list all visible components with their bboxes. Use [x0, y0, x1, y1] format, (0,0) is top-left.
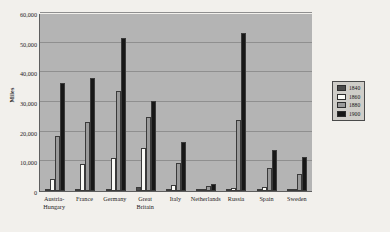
- legend-item: 1900: [337, 111, 360, 117]
- x-tick-label: Russia: [221, 195, 251, 210]
- bar-group: [45, 14, 65, 191]
- bar: [90, 78, 95, 191]
- legend-swatch: [337, 85, 346, 91]
- legend-label: 1860: [349, 94, 360, 100]
- x-tick-label: Germany: [100, 195, 130, 210]
- x-tick-label-line: Russia: [221, 195, 251, 203]
- x-tick-label-line: Hungary: [39, 203, 69, 211]
- bar-group: [166, 14, 186, 191]
- legend-item: 1880: [337, 102, 360, 108]
- legend-label: 1880: [349, 102, 360, 108]
- x-tick-label: Austria-Hungary: [39, 195, 69, 210]
- legend: 1840186018801900: [332, 81, 365, 121]
- y-tick-label: 20,000: [3, 129, 37, 136]
- x-tick-label: Italy: [160, 195, 190, 210]
- bar: [121, 38, 126, 191]
- bar-group: [196, 14, 216, 191]
- bar: [302, 157, 307, 191]
- bar-group: [136, 14, 156, 191]
- x-tick-label: Sweden: [282, 195, 312, 210]
- x-tick-label: France: [69, 195, 99, 210]
- y-tick-label: 60,000: [3, 11, 37, 18]
- bar-group: [106, 14, 126, 191]
- x-tick-label-line: Italy: [160, 195, 190, 203]
- legend-swatch: [337, 94, 346, 100]
- x-tick-label-line: Netherlands: [191, 195, 221, 203]
- bar: [241, 33, 246, 191]
- x-tick-label-line: Britain: [130, 203, 160, 211]
- y-axis: 010,00020,00030,00040,00050,00060,000: [0, 0, 37, 232]
- gridline: [40, 12, 312, 13]
- legend-label: 1900: [349, 111, 360, 117]
- x-tick-label-line: Spain: [251, 195, 281, 203]
- bar-group: [226, 14, 246, 191]
- bar-group: [75, 14, 95, 191]
- bar-groups: [40, 14, 312, 191]
- legend-swatch: [337, 102, 346, 108]
- x-tick-label-line: Great: [130, 195, 160, 203]
- legend-item: 1860: [337, 94, 360, 100]
- plot-area: [39, 14, 312, 192]
- y-axis-title: Miles: [9, 71, 15, 119]
- bar: [151, 101, 156, 191]
- bar-group: [287, 14, 307, 191]
- x-tick-label-line: Austria-: [39, 195, 69, 203]
- legend-item: 1840: [337, 85, 360, 91]
- bar: [272, 150, 277, 191]
- x-axis-labels: Austria-HungaryFranceGermanyGreatBritain…: [39, 195, 312, 210]
- y-tick-label: 10,000: [3, 159, 37, 166]
- legend-swatch: [337, 111, 346, 117]
- bar-group: [257, 14, 277, 191]
- x-tick-label-line: Germany: [100, 195, 130, 203]
- bar: [211, 184, 216, 191]
- x-tick-label-line: France: [69, 195, 99, 203]
- y-tick-label: 0: [3, 189, 37, 196]
- x-tick-label-line: Sweden: [282, 195, 312, 203]
- bar: [181, 142, 186, 191]
- x-tick-label: Spain: [251, 195, 281, 210]
- x-tick-label: Netherlands: [191, 195, 221, 210]
- bar: [60, 83, 65, 191]
- x-tick-label: GreatBritain: [130, 195, 160, 210]
- chart-figure: 010,00020,00030,00040,00050,00060,000 Mi…: [0, 0, 390, 232]
- legend-label: 1840: [349, 85, 360, 91]
- y-tick-label: 50,000: [3, 40, 37, 47]
